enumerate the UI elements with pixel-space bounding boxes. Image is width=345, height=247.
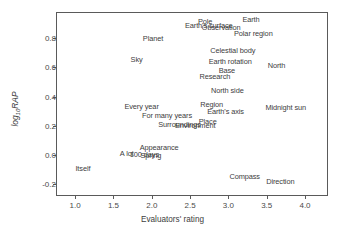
data-point-label: Direction xyxy=(266,178,294,186)
y-tick-label: 0.4 xyxy=(26,92,56,101)
x-tick-mark xyxy=(190,196,191,199)
plot-area: EarthPoleEarth's surfaceObservationPolar… xyxy=(56,12,328,196)
x-tick-label: 2.0 xyxy=(146,201,157,210)
data-point-label: For many years xyxy=(142,112,192,120)
data-point-label: Sky xyxy=(131,56,143,64)
y-tick-label: 0.0 xyxy=(26,151,56,160)
x-tick-label: 3.5 xyxy=(261,201,272,210)
data-point-label: Research xyxy=(200,73,231,81)
x-tick-mark xyxy=(152,196,153,199)
data-point-label: Earth xyxy=(242,16,259,24)
y-axis-title-tail: RAP xyxy=(10,91,20,108)
scatter-plot-figure: log10RAP 0.80.60.40.20.0-0.2 1.01.52.02.… xyxy=(0,0,345,247)
y-axis-title: log10RAP xyxy=(10,64,20,154)
y-tick-label: 0.8 xyxy=(26,34,56,43)
x-tick-label: 1.5 xyxy=(108,201,119,210)
x-tick-label: 3.0 xyxy=(223,201,234,210)
x-tick-mark xyxy=(305,196,306,199)
data-point-label: Spring xyxy=(141,152,162,160)
data-point-label: Earth's axis xyxy=(207,108,244,116)
x-tick-mark xyxy=(75,196,76,199)
data-point-label: Planet xyxy=(143,35,163,43)
x-tick-label: 2.5 xyxy=(185,201,196,210)
data-point-label: Celestial body xyxy=(210,47,255,55)
x-tick-mark xyxy=(228,196,229,199)
data-point-label: Midnight sun xyxy=(265,104,306,112)
x-tick-label: 1.0 xyxy=(70,201,81,210)
data-point-label: Itself xyxy=(75,165,90,173)
y-tick-label: 0.6 xyxy=(26,63,56,72)
x-tick-mark xyxy=(267,196,268,199)
y-tick-label: 0.2 xyxy=(26,121,56,130)
y-axis-title-base: log xyxy=(10,115,20,126)
x-axis-title: Evaluators' rating xyxy=(0,215,345,224)
x-tick-mark xyxy=(113,196,114,199)
data-point-label: Compass xyxy=(229,173,260,181)
data-point-label: Environment xyxy=(175,122,215,130)
data-point-label: Polar region xyxy=(234,30,273,38)
y-axis-title-subscript: 10 xyxy=(15,109,21,116)
data-point-label: North side xyxy=(211,87,244,95)
x-tick-label: 4.0 xyxy=(299,201,310,210)
data-point-label: North xyxy=(268,62,286,70)
y-tick-label: -0.2 xyxy=(26,180,56,189)
